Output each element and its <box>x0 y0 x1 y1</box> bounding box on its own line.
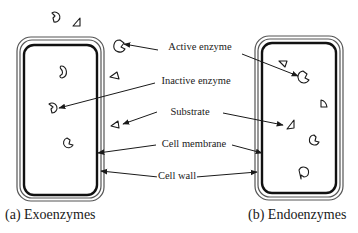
label-inactive-enzyme: Inactive enzyme <box>160 75 231 87</box>
arrow-active-enzyme-right <box>242 54 298 76</box>
label-active-enzyme: Active enzyme <box>167 41 232 53</box>
active-enzyme-icon <box>114 40 125 52</box>
inactive-enzyme-icon <box>60 66 67 78</box>
substrate-icon <box>279 61 287 67</box>
arrow-substrate-right <box>223 113 283 125</box>
arrow-cell-wall-left <box>101 171 158 177</box>
right-cell <box>255 36 343 200</box>
arrow-substrate-left <box>123 112 157 124</box>
inactive-enzyme-icon <box>49 103 57 113</box>
label-cell-membrane: Cell membrane <box>161 138 227 150</box>
right-cell-wall-outer <box>255 36 343 200</box>
inactive-enzyme-icon <box>299 167 309 179</box>
substrate-icon <box>287 120 294 129</box>
arrow-cell-wall-right <box>196 172 257 177</box>
left-cell-wall-outer <box>17 37 104 201</box>
substrate-icon <box>111 121 119 128</box>
active-enzyme-icon <box>64 138 73 148</box>
right-cell-wall-inner <box>258 39 340 197</box>
left-cell-wall-inner <box>20 40 101 198</box>
label-substrate: Substrate <box>169 106 210 118</box>
active-enzyme-icon <box>309 135 319 145</box>
arrow-inactive-enzyme <box>59 83 155 108</box>
caption-exoenzymes: (a) Exoenzymes <box>5 207 96 223</box>
arrow-active-enzyme-left <box>124 44 158 50</box>
inactive-enzyme-icon <box>52 12 60 22</box>
label-cell-wall: Cell wall <box>157 170 197 182</box>
active-enzyme-icon <box>298 71 309 83</box>
arrow-cell-membrane-left <box>98 145 156 153</box>
substrate-icon <box>321 100 327 107</box>
caption-endoenzymes: (b) Endoenzymes <box>248 207 346 223</box>
left-cell <box>17 37 104 201</box>
substrate-icon <box>110 72 119 79</box>
substrate-icon <box>73 18 80 26</box>
